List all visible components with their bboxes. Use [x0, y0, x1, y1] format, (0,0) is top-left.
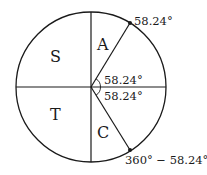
angle-arc-upper	[96, 79, 101, 87]
quadrant-diagram: S A T C 58.24° 58.24° 58.24° 360° − 58.2…	[0, 0, 207, 175]
quadrant-label-t: T	[50, 105, 61, 124]
point-lower-dot	[128, 148, 132, 152]
point-upper-dot	[128, 21, 132, 25]
quadrant-label-c: C	[97, 123, 109, 142]
point-upper-label: 58.24°	[134, 14, 173, 28]
quadrant-label-a: A	[96, 35, 109, 54]
point-lower-label: 360° − 58.24°	[125, 153, 207, 167]
angle-arc-lower	[96, 87, 101, 95]
angle-upper-label: 58.24°	[104, 73, 143, 87]
quadrant-label-s: S	[50, 47, 61, 66]
angle-lower-label: 58.24°	[104, 89, 143, 103]
